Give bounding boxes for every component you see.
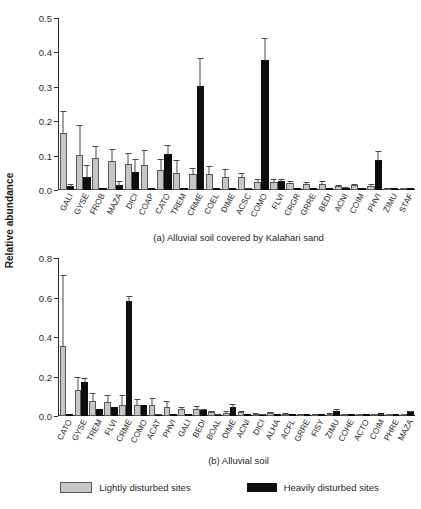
bar-group xyxy=(400,258,415,416)
bar-group xyxy=(163,258,178,416)
bar-group xyxy=(237,258,252,416)
error-bar xyxy=(329,413,330,415)
bar-light xyxy=(222,177,229,190)
chart-panel-a: 0.00.10.20.30.40.5 GALIGYSEFROBMAZADICIC… xyxy=(18,8,419,240)
bar-light xyxy=(238,177,245,190)
x-tick-label-text: DICI xyxy=(124,192,140,211)
error-bar xyxy=(181,407,182,410)
bar-heavy xyxy=(83,177,90,190)
y-tick-mark xyxy=(54,121,58,122)
error-bar xyxy=(273,179,274,182)
x-tick-label-text: GALI xyxy=(176,418,193,439)
bar-group xyxy=(237,18,253,190)
bar-heavy xyxy=(278,181,285,190)
error-bar xyxy=(232,404,233,408)
bar-group xyxy=(91,18,107,190)
y-tick-label: 0.8 xyxy=(39,253,52,264)
y-tick-mark xyxy=(54,298,58,299)
y-tick-mark xyxy=(54,156,58,157)
bar-group xyxy=(59,18,75,190)
bar-light xyxy=(60,133,67,190)
bar-group xyxy=(341,258,356,416)
error-bar xyxy=(176,160,177,174)
bar-light xyxy=(104,402,111,416)
error-bar xyxy=(285,413,286,415)
x-tick-label-text: ACAT xyxy=(145,418,163,441)
x-tick-label-text: COAP xyxy=(137,192,156,217)
x-tick-label: GRRE xyxy=(302,190,318,236)
bar-group xyxy=(148,258,163,416)
x-tick-label: STAF xyxy=(399,190,415,236)
bar-group xyxy=(156,18,172,190)
y-tick-label: 0.4 xyxy=(39,332,52,343)
error-bar xyxy=(300,414,301,415)
error-bar xyxy=(196,406,197,410)
y-tick-label: 0.0 xyxy=(39,411,52,422)
x-tick-label-text: FROB xyxy=(89,192,108,216)
x-tick-label-text: FLVI xyxy=(270,192,286,211)
bar-group xyxy=(385,258,400,416)
plot-area-a: 0.00.10.20.30.40.5 xyxy=(58,18,415,190)
x-tick-label-text: DIME xyxy=(220,418,238,440)
bar-group xyxy=(286,18,302,190)
legend-swatch-heavy xyxy=(247,483,277,492)
x-tick-label-text: ACTO xyxy=(352,418,371,442)
bar-heavy xyxy=(111,407,118,416)
bar-group xyxy=(118,258,133,416)
x-tick-label: DIME xyxy=(221,190,237,236)
bar-light xyxy=(193,409,200,416)
y-tick-mark xyxy=(54,416,58,417)
error-bar xyxy=(79,125,80,156)
bar-light xyxy=(76,155,83,190)
bar-group xyxy=(221,18,237,190)
y-tick-mark xyxy=(54,258,58,259)
bar-group xyxy=(207,258,222,416)
x-tick-label: GALI xyxy=(59,190,75,236)
error-bar xyxy=(218,414,219,415)
x-tick-label-text: COMO xyxy=(249,192,269,219)
bar-light xyxy=(141,165,148,190)
y-tick-label: 0.5 xyxy=(39,13,52,24)
x-tick-label-text: BEDI xyxy=(317,192,334,213)
bar-group-container-b xyxy=(59,258,415,416)
error-bar xyxy=(137,399,138,406)
legend-label: Lightly disturbed sites xyxy=(99,482,190,493)
x-tick-label-text: ACNI xyxy=(235,418,252,439)
y-axis-title: Relative abundance xyxy=(2,0,18,440)
error-bar xyxy=(128,153,129,164)
error-bar xyxy=(241,411,242,413)
y-tick-mark xyxy=(54,337,58,338)
bar-group xyxy=(192,258,207,416)
error-bar xyxy=(264,38,265,61)
bar-light xyxy=(270,182,277,190)
y-tick-mark xyxy=(54,52,58,53)
error-bar xyxy=(167,145,168,155)
error-bar xyxy=(290,181,291,184)
bar-group xyxy=(383,18,399,190)
y-tick-mark xyxy=(54,377,58,378)
error-bar xyxy=(86,165,87,178)
bar-group xyxy=(178,258,193,416)
bar-group xyxy=(74,258,89,416)
legend-item-heavy: Heavily disturbed sites xyxy=(247,482,379,493)
error-bar xyxy=(63,111,64,135)
bar-group xyxy=(253,18,269,190)
x-tick-label: CRME xyxy=(189,190,205,236)
bar-heavy xyxy=(81,382,88,416)
x-tick-label-text: BOAL xyxy=(204,418,222,442)
error-bar xyxy=(336,409,337,412)
bar-group xyxy=(367,18,383,190)
y-tick-label: 0.0 xyxy=(39,185,52,196)
bar-light xyxy=(89,401,96,416)
bar-heavy xyxy=(141,405,148,416)
bar-group xyxy=(399,18,415,190)
error-bar xyxy=(112,149,113,162)
error-bar xyxy=(225,169,226,178)
error-bar xyxy=(70,184,71,187)
x-tick-label: ZIMU xyxy=(383,190,399,236)
error-bar xyxy=(63,275,64,346)
bar-light xyxy=(134,405,141,416)
bar-light xyxy=(75,390,82,416)
x-tick-label-text: MAZA xyxy=(397,418,416,442)
error-bar xyxy=(144,150,145,166)
